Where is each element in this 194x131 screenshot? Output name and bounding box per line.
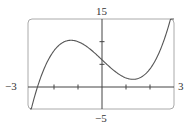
y-min-label: −5 [95, 113, 107, 124]
x-max-label: 3 [178, 81, 184, 92]
y-max-label: 15 [96, 6, 107, 17]
x-min-label: −3 [5, 81, 17, 92]
